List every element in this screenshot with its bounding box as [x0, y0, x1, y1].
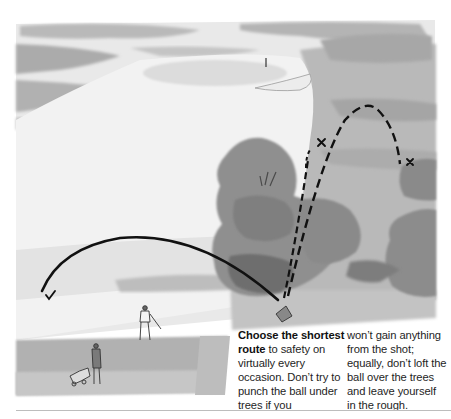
caption-column-2: won’t gain anything from the shot; equal…	[347, 328, 447, 412]
caption-col2-text: won’t gain anything from the shot; equal…	[347, 329, 447, 411]
bottom-divider	[16, 410, 451, 411]
caption-column-1: Choose the shortest route to safety on v…	[238, 328, 350, 412]
